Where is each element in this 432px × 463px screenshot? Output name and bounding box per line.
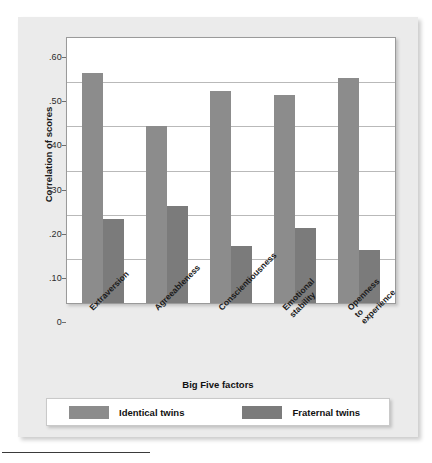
bar — [82, 73, 103, 303]
bar-group — [274, 38, 316, 303]
bar — [210, 91, 231, 303]
y-axis-tick-label: .20 — [49, 229, 62, 239]
bar-groups — [67, 38, 395, 303]
legend-item-identical-twins: Identical twins — [69, 406, 184, 419]
bar-group — [82, 38, 124, 303]
bar — [146, 126, 167, 303]
figure-panel: Correlation of scores 0.10.20.30.40.50.6… — [18, 17, 418, 437]
y-axis: Correlation of scores 0.10.20.30.40.50.6… — [18, 37, 66, 304]
legend-label: Identical twins — [119, 407, 184, 418]
y-axis-title: Correlation of scores — [43, 55, 54, 255]
legend-swatch-icon — [69, 406, 109, 419]
y-axis-tick-label: .40 — [49, 140, 62, 150]
legend-item-fraternal-twins: Fraternal twins — [242, 406, 360, 419]
bar — [338, 78, 359, 303]
y-axis-tick-label: .10 — [49, 273, 62, 283]
bar-group — [210, 38, 252, 303]
caption-rule — [2, 452, 150, 453]
y-axis-tick-label: .60 — [49, 52, 62, 62]
bar — [274, 95, 295, 303]
plot-area — [66, 37, 396, 304]
legend-label: Fraternal twins — [292, 407, 360, 418]
chart-legend: Identical twins Fraternal twins — [46, 398, 390, 426]
y-axis-tick-label: .30 — [49, 185, 62, 195]
bar-group — [338, 38, 380, 303]
x-axis-title: Big Five factors — [18, 379, 418, 390]
legend-swatch-icon — [242, 406, 282, 419]
bar-group — [146, 38, 188, 303]
x-axis: ExtraversionAgreeablenessConscientiousne… — [66, 306, 396, 384]
y-axis-tick-label: .50 — [49, 96, 62, 106]
